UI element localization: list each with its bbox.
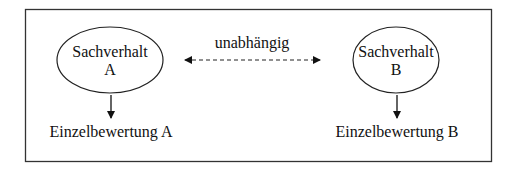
connector-label: unabhängig [202,34,302,52]
node-b-label: Sachverhalt B [346,43,446,79]
diagram-canvas [0,0,516,171]
node-a-line2: A [60,61,160,79]
result-a-label: Einzelbewertung A [41,123,181,141]
node-a-label: Sachverhalt A [60,43,160,79]
node-b-line1: Sachverhalt [346,43,446,61]
node-b-line2: B [346,61,446,79]
result-b-label: Einzelbewertung B [327,123,467,141]
node-a-line1: Sachverhalt [60,43,160,61]
